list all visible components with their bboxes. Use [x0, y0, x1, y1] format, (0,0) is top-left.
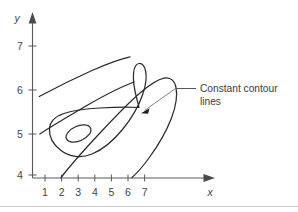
y-axis-arrowhead: [29, 12, 37, 24]
contour-line-5: [39, 57, 130, 97]
y-tick-label-5: 5: [17, 128, 23, 140]
contour-line-1-innermost: [63, 121, 93, 145]
y-tick-label-7: 7: [17, 40, 23, 52]
annotation-text-group: Constant contour lines: [200, 83, 278, 107]
x-tick-label-3: 3: [75, 186, 81, 198]
axes-group: [29, 12, 216, 182]
annotation-leader-slant: [145, 89, 176, 111]
x-tick-label-4: 4: [92, 186, 98, 198]
annotation-line-2: lines: [200, 96, 221, 107]
tick-labels-group: 7 6 5 4 1 2 3 4 5 6 7: [17, 40, 148, 198]
x-axis-label: x: [206, 186, 213, 198]
y-axis-label: y: [13, 12, 20, 24]
y-tick-label-6: 6: [17, 84, 23, 96]
annotation-leader-group: [141, 89, 196, 114]
x-tick-label-1: 1: [42, 186, 48, 198]
contour-plot-figure: 7 6 5 4 1 2 3 4 5 6 7 y x: [0, 0, 298, 212]
contour-line-4: [40, 82, 134, 134]
annotation-line-1: Constant contour: [200, 83, 278, 94]
contour-line-2: [49, 63, 146, 156]
x-tick-label-5: 5: [108, 186, 114, 198]
annotation-arrowhead: [141, 108, 150, 114]
x-tick-label-6: 6: [125, 186, 131, 198]
contour-lines-group: [39, 57, 176, 178]
contour-line-3: [61, 78, 177, 178]
y-tick-label-4: 4: [17, 169, 23, 181]
contour-plot-canvas: 7 6 5 4 1 2 3 4 5 6 7 y x: [0, 0, 298, 212]
x-axis-arrowhead: [204, 174, 216, 182]
x-tick-label-7: 7: [142, 186, 148, 198]
x-tick-label-2: 2: [59, 186, 65, 198]
